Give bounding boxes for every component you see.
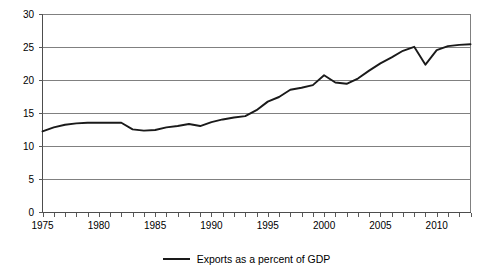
x-tick-label: 1975 [31, 220, 54, 231]
y-tick-label: 15 [23, 108, 35, 119]
x-tick-label: 2010 [426, 220, 449, 231]
legend-line-swatch [163, 258, 190, 260]
x-tick-labels: 19751980198519901995200020052010 [31, 220, 448, 231]
line-chart-plot: 30 25 20 15 10 5 0 197519801985199019952… [0, 0, 493, 253]
x-tick-label: 2000 [313, 220, 336, 231]
y-tick-label: 0 [28, 207, 34, 218]
y-tick-label: 10 [23, 141, 35, 152]
y-tick-marks [39, 15, 43, 213]
chart-legend: Exports as a percent of GDP [0, 253, 493, 265]
y-tick-label: 25 [23, 42, 35, 53]
y-tick-labels: 30 25 20 15 10 5 0 [23, 9, 35, 218]
x-tick-label: 1995 [257, 220, 280, 231]
y-tick-label: 20 [23, 75, 35, 86]
y-tick-label: 30 [23, 9, 35, 20]
x-tick-marks [44, 213, 472, 217]
x-tick-label: 1985 [144, 220, 167, 231]
chart-container: 30 25 20 15 10 5 0 197519801985199019952… [0, 0, 493, 280]
x-tick-label: 1990 [200, 220, 223, 231]
x-tick-label: 1980 [88, 220, 111, 231]
legend-label-exports-percent-gdp: Exports as a percent of GDP [197, 253, 331, 265]
x-tick-label: 2005 [369, 220, 392, 231]
y-tick-label: 5 [28, 174, 34, 185]
gridlines-y [43, 15, 471, 180]
series-line-exports-percent-gdp [43, 44, 471, 131]
